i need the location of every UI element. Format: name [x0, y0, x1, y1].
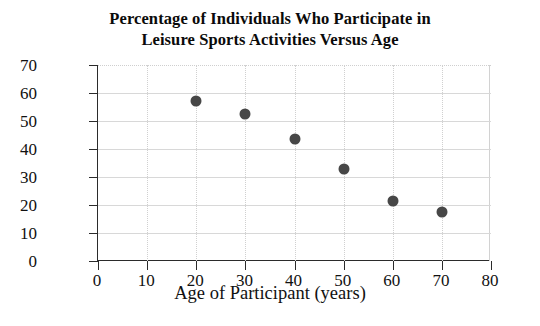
y-axis-tick-label: 60 [0, 85, 37, 102]
y-axis-tick-label: 70 [0, 57, 37, 74]
x-axis-tick-label: 60 [372, 272, 412, 289]
x-axis-tick [147, 261, 148, 270]
scatter-chart-figure: Percentage of Individuals Who Participat… [0, 0, 540, 326]
x-axis-tick [442, 261, 443, 270]
chart-title-line1: Percentage of Individuals Who Participat… [109, 9, 430, 28]
gridline-vertical [245, 65, 246, 261]
y-axis-tick [89, 233, 98, 234]
x-axis-tick-label: 50 [323, 272, 363, 289]
x-axis-tick-label: 20 [175, 272, 215, 289]
x-axis-tick [295, 261, 296, 270]
x-axis-tick [196, 261, 197, 270]
x-axis-tick-label: 30 [224, 272, 264, 289]
data-point [191, 96, 202, 107]
x-axis-tick [344, 261, 345, 270]
data-point [240, 109, 251, 120]
y-axis-tick [89, 121, 98, 122]
gridline-vertical [196, 65, 197, 261]
y-axis-tick-label: 10 [0, 225, 37, 242]
y-axis-tick [89, 65, 98, 66]
x-axis-tick-label: 70 [421, 272, 461, 289]
plot-right-edge [489, 65, 490, 261]
gridline-vertical [442, 65, 443, 261]
x-axis-tick-label: 0 [77, 272, 117, 289]
x-axis-tick [245, 261, 246, 270]
x-axis-tick [393, 261, 394, 270]
gridline-vertical [295, 65, 296, 261]
x-axis-tick-label: 10 [126, 272, 166, 289]
chart-title: Percentage of Individuals Who Participat… [0, 8, 540, 50]
data-point [436, 207, 447, 218]
x-axis-tick [98, 261, 99, 270]
data-point [289, 134, 300, 145]
y-axis-tick-label: 0 [0, 253, 37, 270]
y-axis-tick-label: 20 [0, 197, 37, 214]
chart-title-line2: Leisure Sports Activities Versus Age [0, 29, 540, 50]
x-axis-tick [491, 261, 492, 270]
plot-area [97, 65, 490, 261]
x-axis-tick-label: 40 [274, 272, 314, 289]
data-point [338, 163, 349, 174]
gridline-vertical [393, 65, 394, 261]
y-axis-tick [89, 149, 98, 150]
y-axis-tick-label: 40 [0, 141, 37, 158]
x-axis-tick-label: 80 [470, 272, 510, 289]
y-axis-tick [89, 261, 98, 262]
y-axis-tick [89, 205, 98, 206]
y-axis-tick [89, 177, 98, 178]
data-point [387, 195, 398, 206]
y-axis-tick-label: 50 [0, 113, 37, 130]
gridline-vertical [147, 65, 148, 261]
y-axis-tick [89, 93, 98, 94]
y-axis-tick-label: 30 [0, 169, 37, 186]
